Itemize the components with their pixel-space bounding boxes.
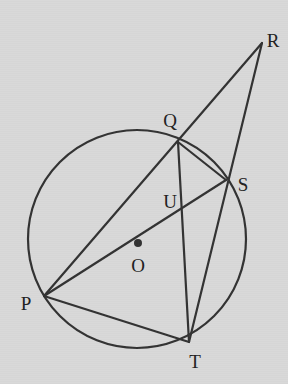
geometry-diagram: PQSTRUO <box>0 0 288 384</box>
segment-P-R <box>44 43 262 296</box>
point-label-t: T <box>189 352 201 371</box>
point-label-r: R <box>267 31 280 50</box>
point-label-p: P <box>21 294 32 313</box>
point-label-s: S <box>238 175 249 194</box>
point-label-o: O <box>131 256 145 275</box>
segment-P-T <box>44 296 189 342</box>
segment-Q-T <box>178 142 189 342</box>
segment-P-S <box>44 180 226 296</box>
point-label-u: U <box>163 192 177 211</box>
segment-T-R <box>189 43 262 342</box>
segment-Q-S <box>178 142 226 180</box>
point-label-q: Q <box>163 111 177 130</box>
center-dot <box>134 239 142 247</box>
